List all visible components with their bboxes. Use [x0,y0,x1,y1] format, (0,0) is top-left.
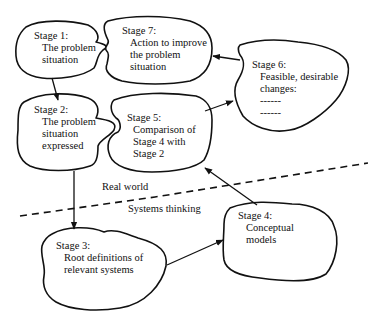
stage6-line: ------ [260,95,338,107]
stage5-title: Stage 5: [127,112,196,124]
stage4-line: Conceptual [246,222,294,234]
stage5-line: Stage 4 with [133,136,196,148]
stage4-line: models [246,234,294,246]
stage7-node: Stage 7: Action to improve the problem s… [122,25,207,73]
stage3-node: Stage 3: Root definitions of relevant sy… [56,240,143,276]
stage1-line: The problem [42,42,96,54]
stage5-line: Comparison of [133,124,196,136]
stage7-line: the problem [130,49,207,61]
stage2-line: expressed [42,140,96,152]
stage2-line: The problem [42,116,96,128]
edge-stage3-to-stage4 [167,240,223,265]
stage6-line: Feasible, desirable [260,71,338,83]
stage4-title: Stage 4: [238,210,294,222]
stage6-title: Stage 6: [252,59,338,71]
stage5-line: Stage 2 [133,148,196,160]
real-world-label: Real world [102,181,148,192]
edge-stage4-to-stage5 [205,168,257,205]
stage2-node: Stage 2: The problem situation expressed [34,104,96,152]
stage6-line: ------ [260,107,338,119]
systems-thinking-label: Systems thinking [128,203,201,214]
stage1-node: Stage 1: The problem situation [34,30,96,66]
stage7-line: situation [130,61,207,73]
stage2-line: situation [42,128,96,140]
stage3-line: Root definitions of [64,252,143,264]
stage2-title: Stage 2: [34,104,96,116]
stage6-line: changes: [260,83,338,95]
edge-stage6-to-stage7 [213,56,240,60]
stage5-node: Stage 5: Comparison of Stage 4 with Stag… [127,112,196,160]
stage7-line: Action to improve [130,37,207,49]
stage1-line: situation [42,54,96,66]
stage4-node: Stage 4: Conceptual models [238,210,294,246]
stage6-node: Stage 6: Feasible, desirable changes: --… [252,59,338,119]
stage1-title: Stage 1: [34,30,96,42]
stage7-title: Stage 7: [122,25,207,37]
stage3-title: Stage 3: [56,240,143,252]
stage3-line: relevant systems [64,264,143,276]
